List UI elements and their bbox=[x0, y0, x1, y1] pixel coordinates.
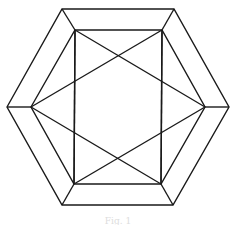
inner-hexagon bbox=[31, 30, 205, 184]
star-line bbox=[31, 107, 161, 184]
connector-line bbox=[62, 9, 75, 30]
star-line bbox=[75, 30, 205, 107]
hexagon-diagram bbox=[0, 0, 236, 225]
outer-hexagon bbox=[7, 9, 229, 205]
star-line bbox=[74, 107, 205, 184]
connector-line bbox=[62, 184, 74, 205]
connector-line bbox=[161, 184, 173, 205]
rect-side bbox=[161, 30, 162, 184]
figure-caption: Fig. 1 bbox=[0, 216, 236, 225]
rect-side bbox=[74, 30, 75, 184]
connector-line bbox=[162, 9, 174, 30]
star-line bbox=[31, 30, 162, 107]
